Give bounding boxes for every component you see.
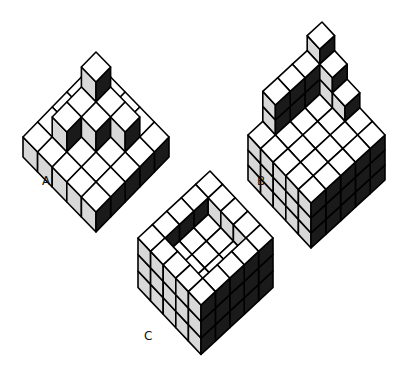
figure-label-c: C [144,330,152,342]
figure-label-a: A [42,175,50,187]
figure-c [138,171,273,355]
block-structures-diagram [0,0,410,377]
figure-b [248,22,385,248]
figure-a [23,52,169,232]
figure-canvas [0,0,410,377]
figure-label-b: B [257,175,265,187]
